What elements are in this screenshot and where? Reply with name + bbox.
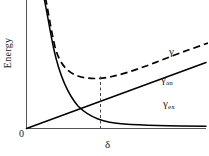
curve-gamma-ex xyxy=(44,0,206,126)
curve-label-gamma-an: γan xyxy=(161,74,173,87)
curve-label-gamma-ex-subscript: ex xyxy=(168,103,175,111)
curve-label-gamma-total-symbol: γ xyxy=(169,45,174,57)
y-axis-label: Energy xyxy=(3,29,13,77)
curve-label-gamma-total: γ xyxy=(169,46,174,59)
origin-label: 0 xyxy=(19,129,24,139)
curve-gamma-total xyxy=(46,0,209,79)
curve-label-gamma-ex: γex xyxy=(163,98,175,111)
curve-gamma-an xyxy=(27,63,207,129)
x-axis-label: δ xyxy=(105,139,110,150)
curve-label-gamma-an-subscript: an xyxy=(166,79,173,87)
energy-vs-delta-figure: Energy δ 0 γ γan γex xyxy=(0,0,208,156)
plot-canvas xyxy=(0,0,208,156)
